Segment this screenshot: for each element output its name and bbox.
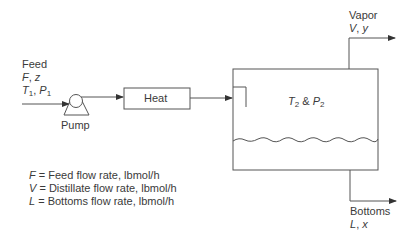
legend-item-distillate: V = Distillate flow rate, lbmol/h [29,182,177,195]
feed-title: Feed [22,58,51,71]
vapor-title: Vapor [349,9,378,22]
drum-conditions-label: T2 & P2 [288,95,324,108]
liquid-level-line [233,138,378,142]
feed-label: Feed F, z T1, P1 [22,58,51,97]
flash-drum-vessel [233,69,378,170]
bottoms-variables: L, x [350,218,390,231]
legend: F = Feed flow rate, lbmol/h V = Distilla… [29,169,177,208]
feed-conditions: T1, P1 [22,84,51,97]
vapor-label: Vapor V, y [349,9,378,35]
bottoms-outlet-line [350,170,396,201]
legend-item-feed: F = Feed flow rate, lbmol/h [29,169,177,182]
heater-label: Heat [144,92,167,105]
feed-variables: F, z [22,71,51,84]
drum-inlet-pipe [233,87,246,107]
pump-icon [64,95,89,116]
pump-label: Pump [61,119,90,132]
vapor-variables: V, y [349,22,378,35]
legend-item-bottoms: L = Bottoms flow rate, lbmol/h [29,195,177,208]
bottoms-title: Bottoms [350,205,390,218]
bottoms-label: Bottoms L, x [350,205,390,231]
vapor-outlet-line [349,38,395,69]
